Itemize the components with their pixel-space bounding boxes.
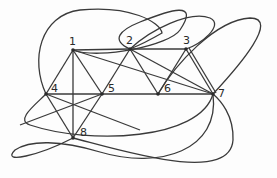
edge-4-cross [46, 94, 140, 130]
edge-5-8 [73, 94, 102, 138]
node-4 [44, 92, 48, 96]
edge-2-6 [130, 49, 158, 94]
node-1 [71, 48, 75, 52]
edge-5-cross [20, 94, 102, 125]
edge-2-5 [102, 49, 130, 94]
curves [12, 9, 261, 162]
node-label-3: 3 [183, 34, 190, 47]
edges [20, 48, 216, 138]
node-8 [71, 136, 75, 140]
edge-1-5 [73, 50, 102, 94]
edge-4-8 [46, 94, 73, 138]
edge-3-7b [189, 48, 216, 93]
graph-canvas: 1 2 3 4 5 6 7 8 [0, 0, 277, 178]
node-label-8: 8 [80, 126, 87, 139]
node-3 [184, 47, 188, 51]
node-2 [128, 47, 132, 51]
node-label-7: 7 [218, 87, 225, 100]
edge-1-2 [73, 49, 130, 50]
node-label-6: 6 [164, 82, 171, 95]
node-6 [156, 92, 160, 96]
node-5 [100, 92, 104, 96]
node-label-1: 1 [69, 35, 76, 48]
loop-4-7-lower [25, 94, 213, 136]
loop-8-7-low [73, 94, 233, 162]
node-label-5: 5 [108, 82, 115, 95]
node-label-4: 4 [51, 82, 58, 95]
node-label-2: 2 [126, 34, 133, 47]
node-7 [211, 92, 215, 96]
graph-diagram: 1 2 3 4 5 6 7 8 [0, 0, 277, 178]
